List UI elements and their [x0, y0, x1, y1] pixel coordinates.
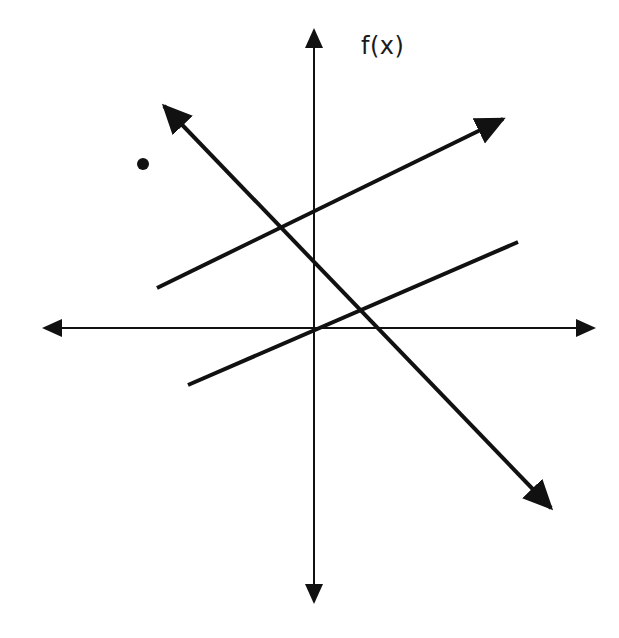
decreasing-line — [164, 106, 551, 508]
isolated-point — [137, 158, 149, 170]
upper-line — [157, 119, 503, 288]
coordinate-plane-diagram — [0, 0, 619, 638]
y-axis-label: f(x) — [361, 34, 404, 58]
lower-line — [188, 242, 518, 385]
